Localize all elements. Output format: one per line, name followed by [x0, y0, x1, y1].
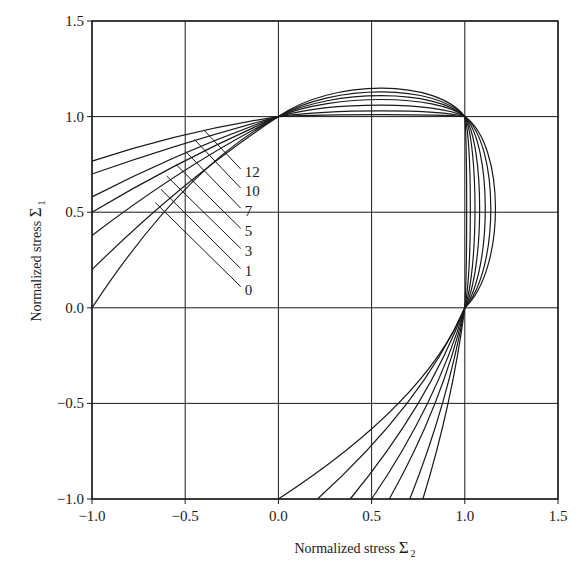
x-tick-label: 1.0 [455, 508, 474, 524]
curve-series-0 [92, 88, 495, 499]
curve-label: 1 [245, 263, 253, 279]
y-tick-label: 0.5 [65, 204, 84, 220]
curve-series-3 [92, 96, 485, 499]
y-axis-ticks: −1.0−0.50.00.51.01.5 [57, 13, 84, 507]
curve-series-7 [92, 105, 475, 499]
curve-labels: 121075310 [245, 164, 260, 298]
curve-label: 5 [245, 223, 253, 239]
leader-line [161, 189, 241, 268]
leader-line [195, 140, 241, 189]
curve-label: 3 [245, 243, 253, 259]
curve-series [92, 88, 495, 499]
curve-label: 0 [245, 282, 253, 298]
grid-lines [87, 21, 558, 504]
curve-label: 12 [245, 164, 260, 180]
curve-label: 7 [245, 203, 253, 219]
y-axis-label: Normalized stress Σ1 [26, 200, 47, 321]
y-tick-label: 1.5 [65, 13, 84, 29]
y-tick-label: 0.0 [65, 300, 84, 316]
y-tick-label: −1.0 [57, 491, 84, 507]
x-axis-ticks: −1.0−0.50.00.51.01.5 [78, 508, 567, 524]
x-tick-label: −1.0 [78, 508, 105, 524]
yield-surface-chart: 121075310 −1.0−0.50.00.51.01.5 −1.0−0.50… [0, 0, 587, 584]
curve-series-12 [92, 115, 467, 499]
x-tick-label: 0.5 [362, 508, 381, 524]
plot-frame [92, 21, 558, 499]
y-tick-label: 1.0 [65, 109, 84, 125]
x-tick-label: 0.0 [269, 508, 288, 524]
curve-series-5 [92, 99, 480, 499]
x-axis-label: Normalized stress Σ2 [294, 538, 415, 559]
y-tick-label: −0.5 [57, 395, 84, 411]
curve-label: 10 [245, 183, 260, 199]
x-tick-label: 1.5 [549, 508, 568, 524]
curve-series-1 [92, 92, 491, 499]
x-tick-label: −0.5 [172, 508, 199, 524]
